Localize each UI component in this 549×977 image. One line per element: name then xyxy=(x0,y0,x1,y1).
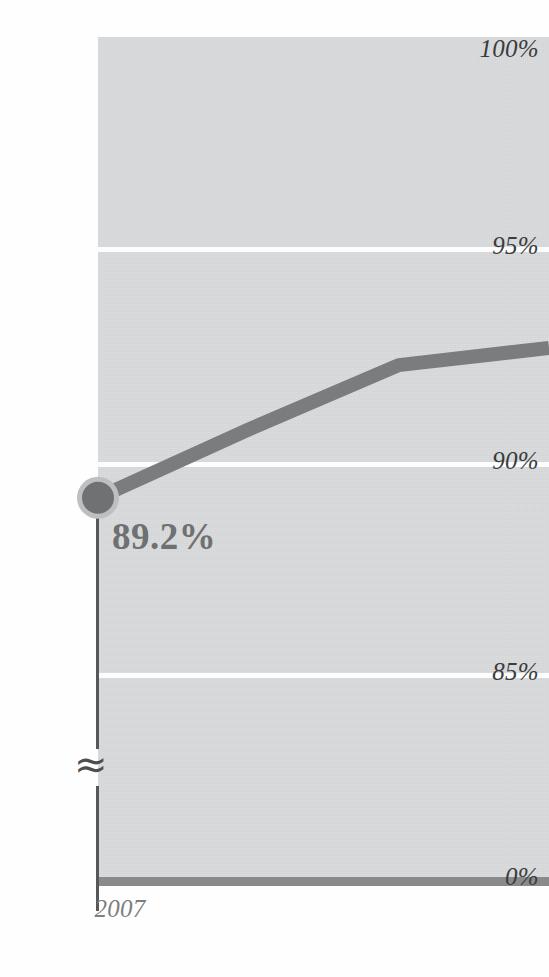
data-point-label: 89.2% xyxy=(112,515,216,558)
y-axis-line-upper xyxy=(96,487,99,749)
clipped-title xyxy=(20,0,540,3)
chart-root: ≈ 100% 95% 90% 85% 0% 2007 89.2% xyxy=(0,0,549,977)
y-axis-tick-0: 0% xyxy=(457,863,549,891)
axis-break-icon: ≈ xyxy=(74,742,120,788)
y-axis-tick-90: 90% xyxy=(457,447,549,475)
y-axis-tick-95: 95% xyxy=(457,232,549,260)
y-axis-tick-100: 100% xyxy=(457,35,549,63)
x-axis-tick-2007: 2007 xyxy=(60,895,180,923)
y-axis-line-lower xyxy=(96,786,99,911)
y-axis-tick-85: 85% xyxy=(457,658,549,686)
axis-break-glyph-upper: ≈ xyxy=(74,742,120,786)
